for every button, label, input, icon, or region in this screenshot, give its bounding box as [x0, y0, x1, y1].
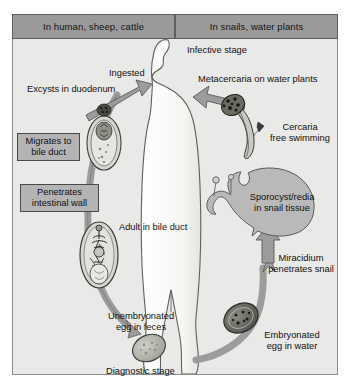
- organism-cercaria: [218, 90, 255, 158]
- organism-adult-fluke: [80, 222, 118, 288]
- box-migrates-to-bile-duct: Migrates to bile duct: [17, 133, 80, 161]
- label-miracidium-line1: Miracidium: [262, 253, 340, 264]
- label-miracidium-line2: penetrates snail: [262, 264, 340, 275]
- header-host-snail: In snails, water plants: [175, 14, 338, 39]
- box-penetrates-line1: Penetrates: [37, 187, 82, 198]
- box-migrates-line1: Migrates to: [26, 136, 72, 147]
- label-ingested: Ingested: [109, 68, 145, 79]
- box-migrates-line2: bile duct: [31, 147, 66, 158]
- label-metacercaria-on-water-plants: Metacercaria on water plants: [198, 74, 317, 85]
- label-diagnostic-stage: Diagnostic stage: [106, 366, 175, 377]
- box-penetrates-line2: intestinal wall: [32, 198, 87, 209]
- label-embryonated-egg-line1: Embryonated: [252, 330, 332, 341]
- label-sporocyst-line2: in snail tissue: [236, 203, 328, 214]
- label-sporocyst-line1: Sporocyst/redia: [236, 192, 328, 203]
- header-host-human-label: In human, sheep, cattle: [43, 21, 144, 32]
- label-adult-in-bile-duct: Adult in bile duct: [119, 222, 187, 233]
- life-cycle-diagram: In human, sheep, cattle In snails, water…: [0, 0, 348, 389]
- header-host-snail-label: In snails, water plants: [210, 21, 304, 32]
- label-infective-stage: Infective stage: [187, 45, 247, 56]
- label-embryonated-egg-line2: egg in water: [252, 341, 332, 352]
- label-unembryonated-egg-line1: Unembryonated: [98, 311, 184, 322]
- label-cercaria-line2: free swimming: [264, 133, 336, 144]
- header-host-human: In human, sheep, cattle: [12, 14, 175, 39]
- label-excysts-in-duodenum: Excysts in duodenum: [27, 84, 115, 95]
- box-penetrates-intestinal-wall: Penetrates intestinal wall: [20, 184, 99, 212]
- label-cercaria-line1: Cercaria: [264, 122, 336, 133]
- label-unembryonated-egg-line2: egg in feces: [98, 322, 184, 333]
